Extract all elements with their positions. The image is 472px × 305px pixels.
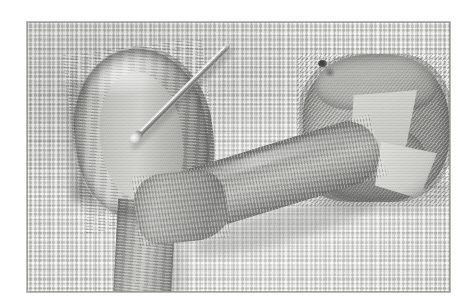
knot-rib-texture	[132, 167, 231, 246]
ribbon-knot-centre	[132, 167, 231, 246]
photograph: Ribbon embroidery in progress on evenwea…	[27, 22, 450, 292]
pin-hole-icon	[318, 60, 327, 67]
page-canvas: Ribbon embroidery in progress on evenwea…	[0, 0, 472, 305]
pin-hole-halo	[324, 68, 336, 77]
photograph-image	[27, 22, 450, 292]
